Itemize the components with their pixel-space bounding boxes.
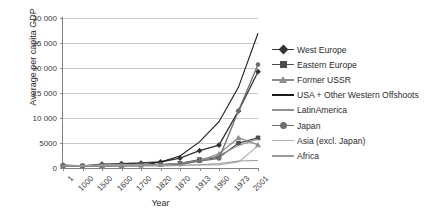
- legend-key-icon: [272, 150, 294, 162]
- y-tick-label: 30 000: [33, 14, 57, 23]
- legend-item[interactable]: USA + Other Western Offshoots: [272, 88, 419, 103]
- legend-label: Former USSR: [294, 75, 351, 85]
- series-marker: [236, 109, 241, 114]
- legend-label: Africa: [294, 151, 319, 161]
- y-tick-label: 0: [53, 164, 57, 173]
- y-tick-label: 15 000: [33, 89, 57, 98]
- series-marker: [217, 156, 222, 161]
- legend-label: Japan: [294, 121, 320, 131]
- plot-area: [63, 18, 258, 168]
- x-tick-mark: [102, 168, 103, 171]
- y-tick-label: 20 000: [33, 64, 57, 73]
- legend-key-icon: [272, 135, 294, 147]
- x-tick-mark: [258, 168, 259, 171]
- y-tick-label: 5000: [39, 139, 57, 148]
- x-tick-mark: [239, 168, 240, 171]
- legend-label: West Europe: [294, 45, 347, 55]
- legend-label: LatinAmerica: [294, 105, 347, 115]
- legend-item[interactable]: Eastern Europe: [272, 57, 419, 72]
- x-tick-mark: [141, 168, 142, 171]
- series-marker: [236, 135, 242, 140]
- legend-item[interactable]: Former USSR: [272, 72, 419, 87]
- series-marker: [216, 142, 222, 148]
- x-tick-mark: [63, 168, 64, 171]
- legend-key-icon: [272, 44, 294, 56]
- legend-label: Eastern Europe: [294, 60, 357, 70]
- chart-figure: Average per capita GDP 0500010 00015 000…: [0, 0, 441, 217]
- legend-item[interactable]: Japan: [272, 118, 419, 133]
- series-marker: [256, 62, 261, 67]
- y-tick-label: 25 000: [33, 39, 57, 48]
- x-tick-mark: [161, 168, 162, 171]
- x-tick-mark: [180, 168, 181, 171]
- x-tick-mark: [122, 168, 123, 171]
- y-axis-line: [62, 17, 63, 169]
- x-tick-mark: [200, 168, 201, 171]
- legend-item[interactable]: Africa: [272, 148, 419, 163]
- y-tick-label: 10 000: [33, 114, 57, 123]
- series-marker: [197, 148, 203, 154]
- legend-label: USA + Other Western Offshoots: [294, 90, 419, 100]
- legend-key-icon: [272, 59, 294, 71]
- legend-item[interactable]: LatinAmerica: [272, 103, 419, 118]
- legend-key-icon: [272, 104, 294, 116]
- x-tick-mark: [83, 168, 84, 171]
- legend-key-icon: [272, 89, 294, 101]
- chart-legend: West EuropeEastern EuropeFormer USSRUSA …: [272, 42, 419, 164]
- legend-key-icon: [272, 74, 294, 86]
- series-marker: [197, 159, 202, 164]
- x-tick-mark: [219, 168, 220, 171]
- legend-item[interactable]: Asia (excl. Japan): [272, 133, 419, 148]
- legend-item[interactable]: West Europe: [272, 42, 419, 57]
- x-axis-title: Year: [63, 198, 258, 208]
- series-layer: [63, 18, 258, 168]
- series-line: [63, 72, 258, 166]
- legend-label: Asia (excl. Japan): [294, 136, 365, 146]
- legend-key-icon: [272, 120, 294, 132]
